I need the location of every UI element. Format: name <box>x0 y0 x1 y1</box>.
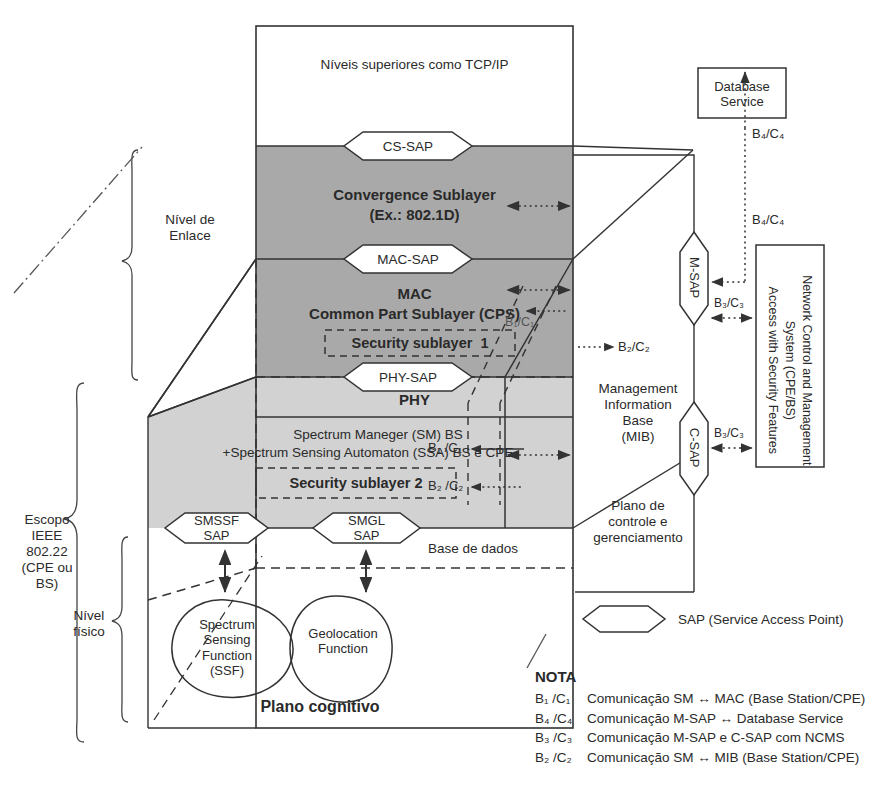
geolocation-label: Geolocation Function <box>292 626 394 657</box>
nota-code: B₁ /C₁ <box>535 689 579 709</box>
b4c4-msap-label: B₄/C₄ <box>752 212 784 227</box>
nota-list: B₁ /C₁ Comunicação SM ↔ MAC (Base Statio… <box>535 689 865 767</box>
escopo-ieee-label: Escopo IEEE 802.22 (CPE ou BS) <box>4 512 90 592</box>
smssf-sap-label[interactable]: SMSSF SAP <box>165 513 268 544</box>
nivel-enlace-label: Nível de Enlace <box>148 212 232 244</box>
nota-code: B₄ /C₄ <box>535 709 579 729</box>
nota-text: Comunicação SM ↔ MAC (Base Station/CPE) <box>587 689 865 709</box>
nota-code: B₃ /C₃ <box>535 728 579 748</box>
nota-text: Comunicação SM ↔ MIB (Base Station/CPE) <box>587 748 859 768</box>
nota-row: B₃ /C₃ Comunicação M-SAP e C-SAP com NCM… <box>535 728 865 748</box>
scope-dashdot-line <box>14 147 142 293</box>
spectrum-manager-line1: Spectrum Maneger (SM) BS <box>178 427 578 443</box>
nota-row: B₂ /C₂ Comunicação SM ↔ MIB (Base Statio… <box>535 748 865 768</box>
security-sublayer-2-label: Security sublayer 2 <box>256 475 456 492</box>
b2c2-mid-label: B₂ /C₂ <box>428 478 463 493</box>
smgl-sap-label[interactable]: SMGL SAP <box>313 513 420 544</box>
left-braces <box>64 150 138 742</box>
b3c3-msap-label: B₃/C₃ <box>714 296 744 310</box>
mac-sap-label[interactable]: MAC-SAP <box>344 252 472 268</box>
plano-cognitivo-label: Plano cognitivo <box>200 698 440 717</box>
m-sap-label[interactable]: M-SAP <box>686 228 701 328</box>
nota-title: NOTA <box>535 668 576 686</box>
convergence-sublayer-title: Convergence Sublayer <box>256 186 573 204</box>
ssf-label: Spectrum Sensing Function (SSF) <box>178 617 276 678</box>
sap-legend-label: SAP (Service Access Point) <box>678 612 844 628</box>
ncms-label: Network Control and Management System (C… <box>765 252 816 488</box>
nota-row: B₁ /C₁ Comunicação SM ↔ MAC (Base Statio… <box>535 689 865 709</box>
nivel-fisico-label: Nível físico <box>50 608 128 640</box>
upper-layers-label: Níveis superiores como TCP/IP <box>256 57 573 73</box>
mib-label: Management Information Base (MIB) <box>583 381 693 445</box>
b1c1-inner-label: B₁/C₁ <box>505 315 534 330</box>
b1c1-mid-label: B₁ /C₁ <box>428 440 462 455</box>
nota-text: Comunicação M-SAP ↔ Database Service <box>587 709 843 729</box>
phy-title: PHY <box>256 391 573 409</box>
cs-sap-label[interactable]: CS-SAP <box>344 139 472 155</box>
plano-controle-label: Plano de controle e gerenciamento <box>578 498 698 546</box>
nota-row: B₄ /C₄ Comunicação M-SAP ↔ Database Serv… <box>535 709 865 729</box>
diagram-canvas: Níveis superiores como TCP/IP CS-SAP MAC… <box>0 0 889 790</box>
nota-tick <box>527 634 546 668</box>
base-de-dados-label: Base de dados <box>428 541 518 557</box>
nota-code: B₂ /C₂ <box>535 748 579 768</box>
b4c4-top-label: B₄/C₄ <box>752 126 784 141</box>
mac-title: MAC <box>256 285 573 303</box>
nivel-enlace-brace <box>122 150 138 380</box>
sap-legend-shape <box>583 606 665 632</box>
phy-sap-label[interactable]: PHY-SAP <box>344 370 472 386</box>
nota-text: Comunicação M-SAP e C-SAP com NCMS <box>587 728 845 748</box>
database-service-label: Database Service <box>698 79 786 110</box>
spectrum-sensing-automaton-line2: +Spectrum Sensing Automaton (SSA) BS e C… <box>158 445 578 461</box>
b3c3-csap-label: B₃/C₃ <box>714 426 744 440</box>
b2c2-right-label: B₂/C₂ <box>618 339 650 354</box>
security-sublayer-1-label: Security sublayer 1 <box>325 335 515 352</box>
convergence-sublayer-example: (Ex.: 802.1D) <box>256 206 573 224</box>
